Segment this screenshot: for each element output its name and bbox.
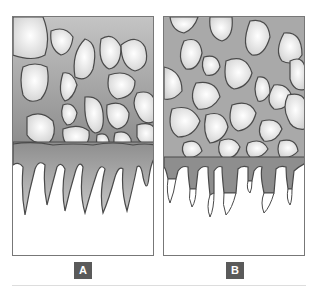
panel-a-illustration	[13, 17, 154, 256]
panel-b	[163, 16, 305, 256]
panel-label-b: B	[226, 262, 244, 279]
panel-a	[12, 16, 154, 256]
panel-b-illustration	[164, 17, 305, 256]
panel-label-a: A	[74, 262, 92, 279]
stalactite-projections-a	[13, 142, 154, 215]
matrix-projections-b	[164, 157, 305, 195]
bottom-divider	[12, 285, 306, 286]
